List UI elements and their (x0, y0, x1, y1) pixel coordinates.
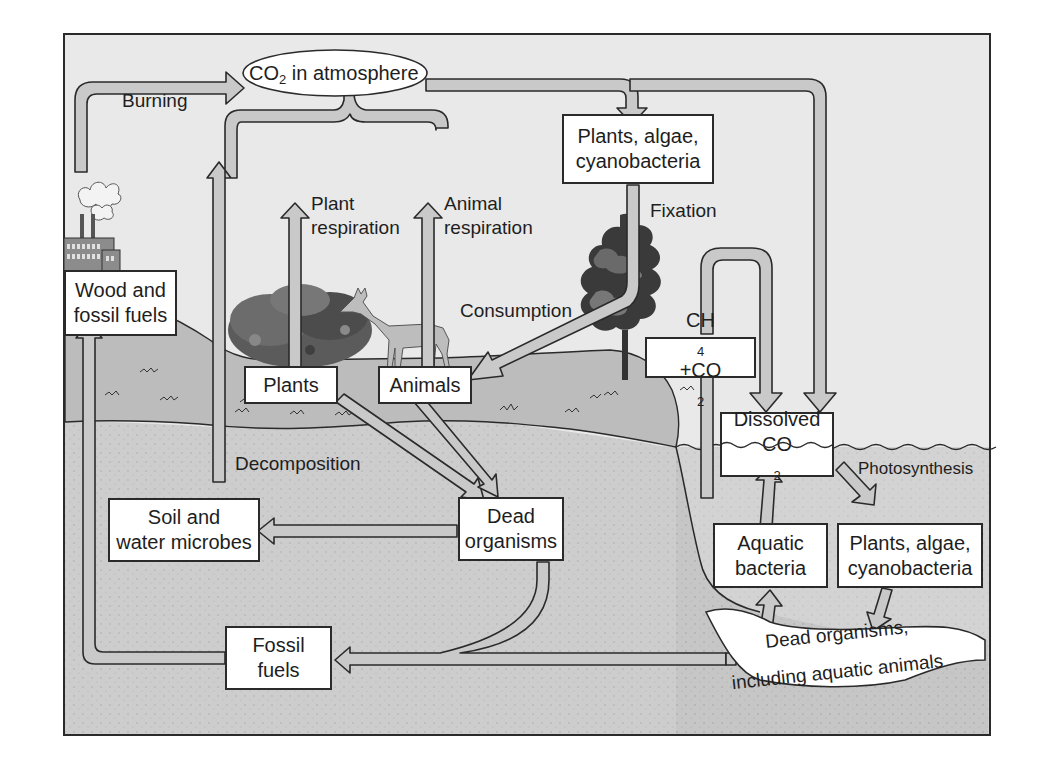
label-consumption: Consumption (460, 299, 572, 323)
label-decomposition: Decomposition (235, 452, 361, 476)
dissolved-wave-icon (720, 440, 834, 450)
label-plant-respiration: Plant respiration (311, 192, 400, 240)
box-soil-water-microbes: Soil and water microbes (108, 498, 260, 562)
carbon-cycle-diagram: Dead organisms, including aquatic animal… (0, 0, 1046, 771)
box-plants: Plants (244, 366, 338, 404)
label-fixation: Fixation (650, 199, 717, 223)
box-dead-organisms: Dead organisms (458, 497, 564, 561)
box-wood-fossil-fuels: Wood and fossil fuels (64, 270, 177, 336)
box-aquatic-bacteria: Aquatic bacteria (713, 523, 828, 588)
box-producers-terrestrial: Plants, algae, cyanobacteria (562, 114, 714, 184)
label-animal-respiration: Animal respiration (444, 192, 533, 240)
diagram-canvas: Dead organisms, including aquatic animal… (0, 0, 1046, 771)
box-producers-aquatic: Plants, algae, cyanobacteria (837, 523, 983, 588)
box-methane-co2: CH4 +CO2 (645, 337, 756, 378)
label-burning: Burning (122, 89, 188, 113)
atmosphere-label: CO2 in atmosphere (249, 61, 419, 85)
box-animals: Animals (378, 366, 472, 404)
box-fossil-fuels: Fossil fuels (225, 626, 332, 690)
label-photosynthesis: Photosynthesis (858, 457, 973, 481)
